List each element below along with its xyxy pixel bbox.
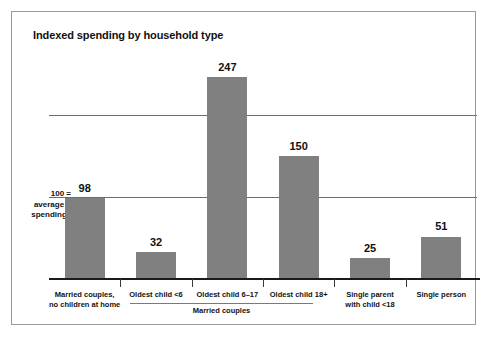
bar <box>136 252 176 278</box>
bar-value-label: 51 <box>411 220 471 232</box>
gridline-200 <box>49 115 477 116</box>
category-label: Oldest child <6 <box>116 290 196 300</box>
category-label-line-1: Oldest child 18+ <box>259 290 339 300</box>
bar-value-label: 32 <box>126 236 186 248</box>
category-label: Single person <box>401 290 481 300</box>
bar-value-label: 150 <box>269 140 329 152</box>
bar <box>65 198 105 278</box>
category-label: Oldest child 18+ <box>259 290 339 300</box>
bar <box>207 77 247 278</box>
category-label-line-2: with child <18 <box>330 300 410 310</box>
bar <box>279 156 319 278</box>
category-label-line-1: Oldest child <6 <box>116 290 196 300</box>
group-bracket-label: Married couples <box>130 306 313 315</box>
chart-title: Indexed spending by household type <box>33 29 223 41</box>
plot-area <box>49 42 477 278</box>
chart-frame: Indexed spending by household type 100 =… <box>11 11 476 325</box>
category-label-line-2: no children at home <box>45 300 125 310</box>
category-label-line-1: Single person <box>401 290 481 300</box>
category-label-line-1: Married couples, <box>45 290 125 300</box>
category-label: Single parentwith child <18 <box>330 290 410 310</box>
x-axis-baseline <box>49 278 480 280</box>
bar-value-label: 98 <box>55 182 115 194</box>
category-label-line-1: Single parent <box>330 290 410 300</box>
x-axis-tick <box>263 279 264 287</box>
x-axis-tick <box>406 279 407 287</box>
x-axis-tick <box>334 279 335 287</box>
category-label-line-1: Oldest child 6–17 <box>187 290 267 300</box>
gridline-100 <box>49 197 477 198</box>
x-axis-tick <box>192 279 193 287</box>
bar <box>421 237 461 279</box>
bar <box>350 258 390 278</box>
group-bracket-line <box>130 303 313 304</box>
x-axis-tick <box>120 279 121 287</box>
bar-value-label: 247 <box>197 61 257 73</box>
bar-value-label: 25 <box>340 242 400 254</box>
category-label: Married couples,no children at home <box>45 290 125 310</box>
category-label: Oldest child 6–17 <box>187 290 267 300</box>
